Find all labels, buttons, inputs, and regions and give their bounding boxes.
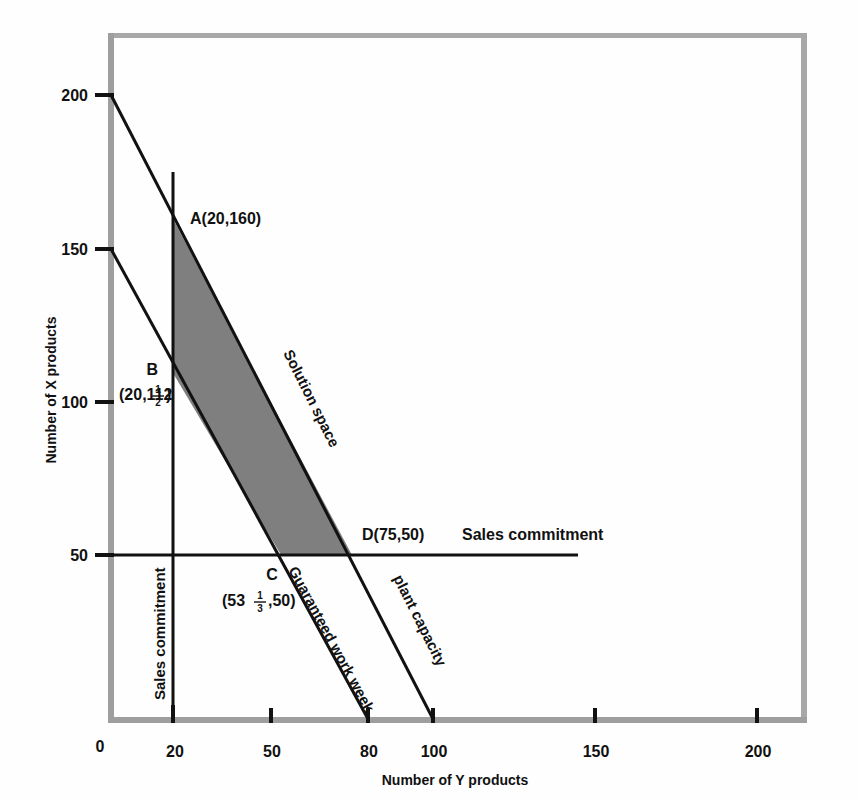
- x-tick-label-80: 80: [360, 743, 378, 760]
- vertex-C-frac-denominator: 3: [257, 603, 263, 614]
- vertex-B-frac-numerator: 1: [155, 384, 161, 395]
- y-tick-label-200: 200: [61, 87, 88, 104]
- vertex-label-B: B: [146, 361, 158, 378]
- vertex-label-C: C: [266, 566, 278, 583]
- x-tick-label-150: 150: [583, 743, 610, 760]
- y-tick-label-50: 50: [70, 547, 88, 564]
- vertex-B-frac-denominator: 2: [155, 397, 161, 408]
- constraint-lines: [111, 95, 578, 719]
- x-tick-label-200: 200: [745, 743, 772, 760]
- x-tick-label-50: 50: [263, 743, 281, 760]
- vertex-C-coord-close: ,50): [268, 592, 296, 609]
- chart-svg: 200 150 100 50 0 20 50 80 100 150 200 Nu…: [0, 0, 858, 800]
- vertex-label-B-coords: (20,112 1 2 ): [119, 384, 172, 408]
- vertex-B-coord-close: ): [166, 386, 171, 403]
- vertex-label-C-coords: (53 1 3 ,50): [222, 590, 296, 614]
- vertex-C-coord-open: (53: [222, 592, 245, 609]
- y-tick-label-150: 150: [61, 241, 88, 258]
- vertex-label-A: A(20,160): [190, 210, 261, 227]
- solution-space-label: Solution space: [280, 347, 343, 450]
- y-axis-title: Number of X products: [43, 316, 59, 463]
- sales-commitment-horizontal-label: Sales commitment: [462, 526, 604, 543]
- sales-commitment-vertical-label: Sales commitment: [151, 567, 168, 700]
- vertex-C-frac-numerator: 1: [257, 590, 263, 601]
- x-axis-line: [108, 717, 807, 723]
- vertex-B-coord-open: (20,112: [119, 386, 172, 403]
- linear-programming-chart-figure: 200 150 100 50 0 20 50 80 100 150 200 Nu…: [0, 0, 858, 800]
- x-tick-label-0: 0: [96, 738, 105, 755]
- y-tick-label-100: 100: [61, 394, 88, 411]
- x-axis-title: Number of Y products: [382, 772, 529, 788]
- x-tick-label-100: 100: [421, 743, 448, 760]
- vertex-label-D: D(75,50): [362, 526, 424, 543]
- x-tick-label-20: 20: [166, 743, 184, 760]
- y-axis-line: [108, 33, 114, 723]
